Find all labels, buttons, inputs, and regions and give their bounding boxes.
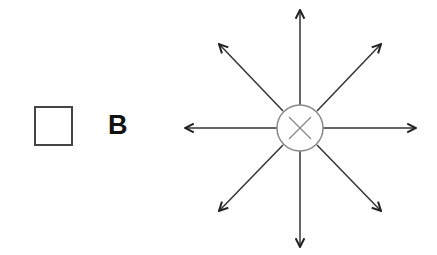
arrow-down-right — [317, 145, 381, 211]
center-circle-x-icon — [277, 105, 323, 151]
arrow-down-left — [219, 145, 283, 211]
arrow-up-left — [219, 44, 283, 111]
radiating-arrows-diagram — [0, 0, 437, 255]
arrow-up-right — [317, 44, 381, 111]
